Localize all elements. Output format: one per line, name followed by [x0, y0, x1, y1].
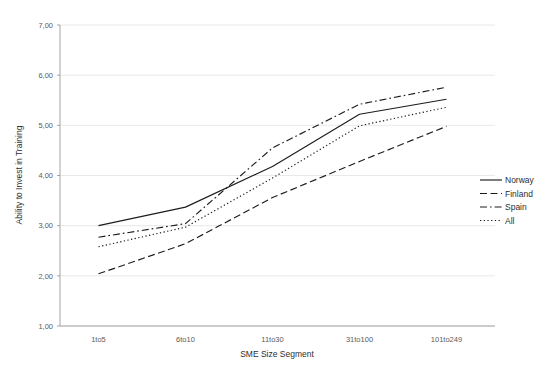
y-tick-label: 2,00 [38, 272, 53, 281]
y-tick-label: 6,00 [38, 71, 53, 80]
x-tick-labels-group: 1to56to1011to3031to100101to249 [91, 335, 462, 344]
x-tick-label: 1to5 [91, 335, 106, 344]
y-tick-label: 4,00 [38, 171, 53, 180]
data-series-group [99, 87, 447, 274]
legend-label-finland[interactable]: Finland [505, 189, 533, 199]
y-tick-label: 3,00 [38, 221, 53, 230]
series-line-finland [99, 126, 447, 273]
legend-label-spain[interactable]: Spain [505, 202, 527, 212]
y-tick-labels-group: 7,006,005,004,003,002,001,00 [38, 21, 60, 331]
x-axis-title: SME Size Segment [240, 349, 314, 359]
x-tick-label: 31to100 [346, 335, 373, 344]
x-tick-label: 11to30 [261, 335, 283, 344]
legend-label-norway[interactable]: Norway [505, 175, 535, 185]
legend: NorwayFinlandSpainAll [480, 175, 535, 226]
gridlines-group [60, 25, 495, 326]
y-tick-label: 7,00 [38, 21, 53, 30]
y-tick-label: 1,00 [38, 322, 53, 331]
line-chart-svg: 7,006,005,004,003,002,001,00 1to56to1011… [0, 0, 555, 376]
x-tick-label: 101to249 [431, 335, 462, 344]
x-tick-label: 6to10 [176, 335, 195, 344]
legend-label-all[interactable]: All [505, 216, 515, 226]
chart-container: 7,006,005,004,003,002,001,00 1to56to1011… [0, 0, 555, 376]
y-axis-title: Ability to Invest in Training [14, 125, 24, 224]
y-tick-label: 5,00 [38, 121, 53, 130]
